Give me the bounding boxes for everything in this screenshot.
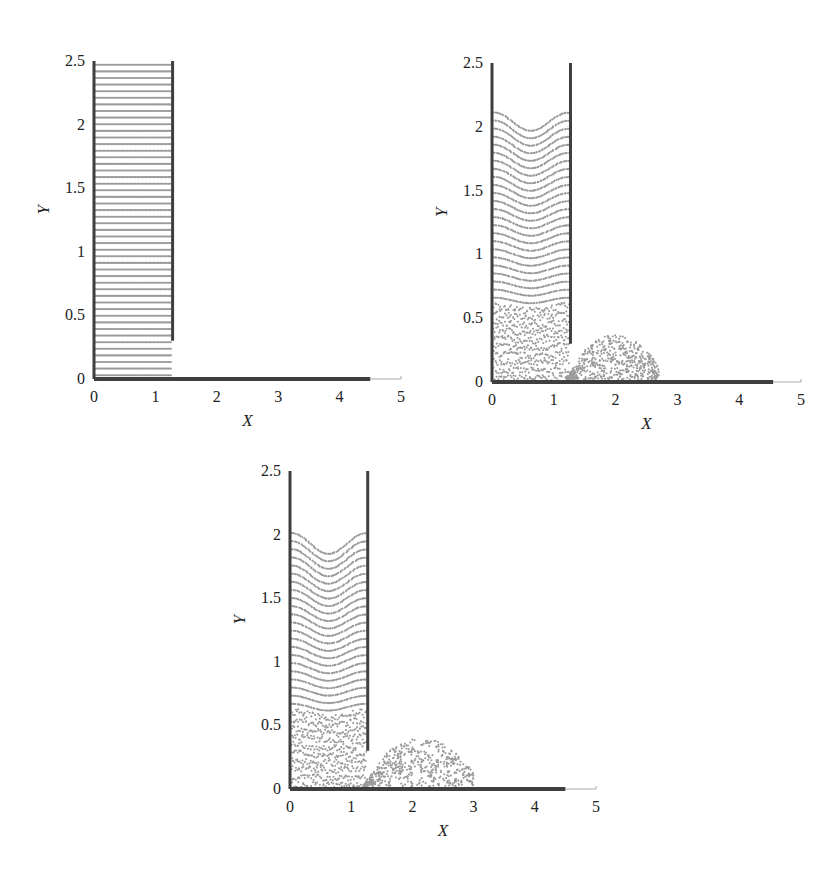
x-tick-label: 4 <box>531 798 539 815</box>
fluid-particles <box>290 532 474 789</box>
x-tick-label: 5 <box>592 798 600 815</box>
x-tick-label: 2 <box>408 798 416 815</box>
y-tick-label: 2.5 <box>261 462 281 479</box>
x-tick-label: 1 <box>347 798 355 815</box>
x-tick-label: 0 <box>286 798 294 815</box>
y-tick-label: 2 <box>273 526 281 543</box>
x-axis-label: X <box>437 821 449 840</box>
y-axis-label: Y <box>230 614 249 625</box>
x-tick-label: 3 <box>470 798 478 815</box>
y-tick-label: 1 <box>273 653 281 670</box>
plot-area: 01234500.511.522.5XY <box>0 0 837 880</box>
panel-later-state: 01234500.511.522.5XY <box>0 0 837 880</box>
y-tick-label: 0.5 <box>261 716 281 733</box>
y-tick-label: 0 <box>273 780 281 797</box>
y-tick-label: 1.5 <box>261 589 281 606</box>
